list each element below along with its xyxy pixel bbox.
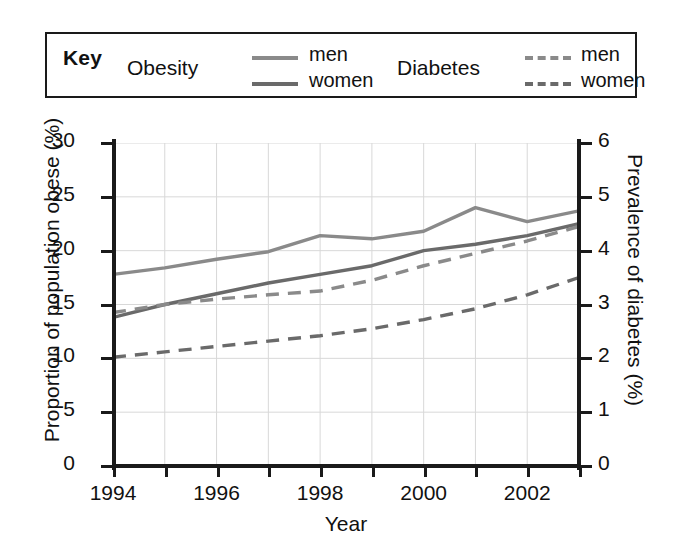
left-axis-tick [101,411,113,414]
legend-label-obesity-men: men [309,43,348,66]
right-axis-title: Prevalence of diabetes (%) [623,100,647,460]
x-axis-tick-label: 2000 [379,481,469,505]
gridlines [113,143,579,466]
legend-key-label: Key [63,46,102,70]
right-axis-tick [580,250,592,253]
x-axis-tick-label: 1996 [172,481,262,505]
right-axis-tick [580,142,592,145]
right-axis-tick [580,304,592,307]
x-axis-tick [527,466,530,477]
x-axis-tick-label: 1998 [275,481,365,505]
x-axis-tick [113,466,116,477]
legend-group-obesity: Obesity [127,56,198,80]
x-axis-tick [372,466,375,477]
x-axis-tick [424,466,427,477]
legend-label-diabetes-men: men [581,43,620,66]
plot-area [113,143,579,466]
right-axis-tick [580,357,592,360]
left-axis-tick [101,465,113,468]
left-axis-tick [101,304,113,307]
series-line-obesity-men [113,208,579,275]
x-axis-tick [475,466,478,477]
bottom-axis-spine [112,464,581,468]
x-axis-tick [579,466,582,477]
x-axis-tick-label: 2002 [482,481,572,505]
left-axis-tick [101,357,113,360]
right-axis-tick [580,196,592,199]
left-axis-tick [101,196,113,199]
x-axis-tick [165,466,168,477]
legend-group-diabetes: Diabetes [397,56,480,80]
left-axis-title: Proportion of population obese (%) [40,100,64,460]
legend-label-obesity-women: women [309,69,373,92]
series-line-diabetes-women [113,278,579,358]
left-axis-tick [101,142,113,145]
x-axis-tick-label: 1994 [68,481,158,505]
legend-label-diabetes-women: women [581,69,645,92]
chart-legend: Key Obesity Diabetes men women men women [45,32,637,98]
legend-swatch-diabetes-men [525,56,571,60]
legend-swatch-obesity-women [252,82,298,86]
left-axis-tick [101,250,113,253]
x-axis-tick [320,466,323,477]
x-axis-tick [217,466,220,477]
right-axis-tick [580,411,592,414]
plot-svg [113,143,579,466]
legend-swatch-diabetes-women [525,82,571,86]
x-axis-title: Year [113,512,579,536]
x-axis-tick [268,466,271,477]
line-chart: 051015202530012345619941996199820002002 … [0,108,683,556]
legend-swatch-obesity-men [252,56,298,60]
